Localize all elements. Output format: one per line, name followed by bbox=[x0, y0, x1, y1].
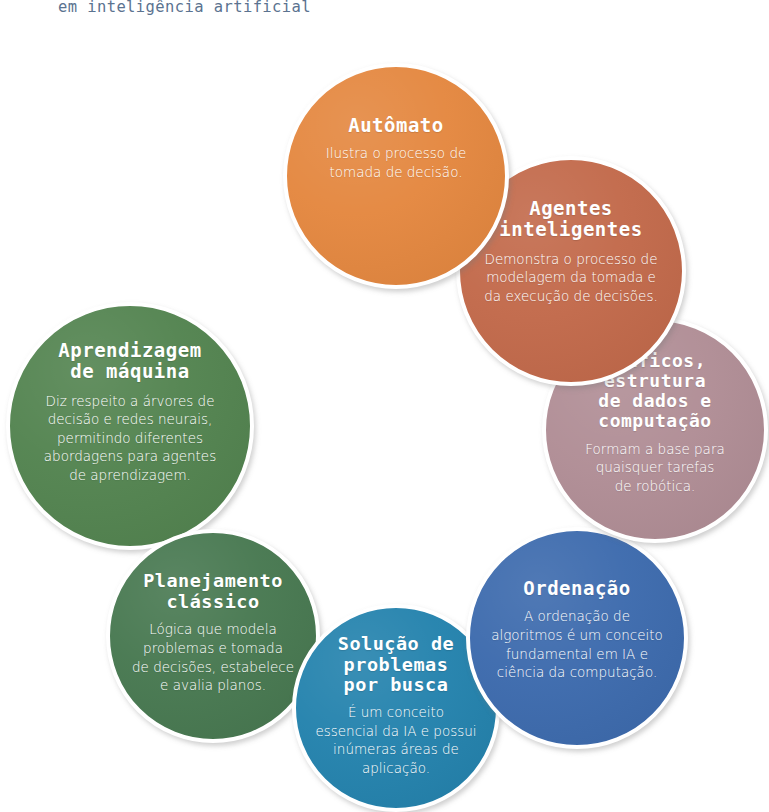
bubble-aprendizagem-de-maquina[interactable]: Aprendizagem de máquina Diz respeito a á… bbox=[6, 302, 254, 550]
bubble-description: Formam a base para quaisquer tarefas de … bbox=[565, 440, 745, 496]
bubble-title: Agentes inteligentes bbox=[499, 198, 642, 241]
bubble-description: Demonstra o processo de modelagem da tom… bbox=[473, 250, 669, 306]
bubble-description: É um conceito essencial da IA e possui i… bbox=[308, 703, 484, 778]
bubble-planejamento-classico[interactable]: Planejamento clássico Lógica que modela … bbox=[106, 529, 320, 743]
bubble-ordenacao[interactable]: Ordenação A ordenação de algoritmos é um… bbox=[466, 527, 688, 749]
bubble-title: Solução de problemas por busca bbox=[338, 634, 454, 696]
bubble-description: Ilustra o processo de tomada de decisão. bbox=[306, 144, 486, 181]
bubble-title: Planejamento clássico bbox=[143, 571, 283, 612]
bubble-description: A ordenação de algoritmos é um conceito … bbox=[482, 607, 672, 682]
page-caption: em inteligência artificial bbox=[58, 0, 311, 16]
bubble-description: Lógica que modela problemas e tomada de … bbox=[124, 620, 302, 695]
bubble-automato[interactable]: Autômato Ilustra o processo de tomada de… bbox=[283, 63, 509, 289]
bubble-title: Autômato bbox=[348, 115, 444, 136]
bubble-title: Ordenação bbox=[523, 578, 630, 599]
bubble-description: Diz respeito a árvores de decisão e rede… bbox=[23, 392, 237, 485]
bubble-title: Aprendizagem de máquina bbox=[58, 340, 201, 383]
